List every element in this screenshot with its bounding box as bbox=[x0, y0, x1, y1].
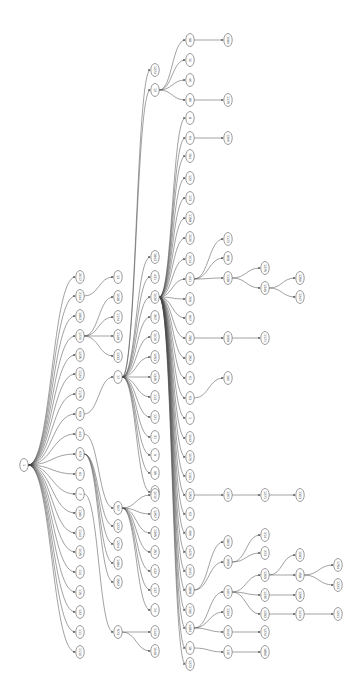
tree-node: 63 bbox=[186, 392, 194, 405]
tree-edge bbox=[159, 297, 185, 590]
node-label: 1303 bbox=[298, 491, 302, 499]
edges-layer bbox=[28, 40, 333, 664]
tree-edge bbox=[159, 297, 185, 610]
tree-node: 86 bbox=[186, 94, 194, 107]
tree-node: 18 bbox=[186, 642, 194, 655]
node-label: 1856 bbox=[263, 648, 267, 656]
tree-node: 367 bbox=[151, 311, 159, 324]
node-label: 1038 bbox=[116, 293, 120, 301]
tree-node: 1562 bbox=[114, 576, 122, 589]
tree-edge bbox=[304, 575, 333, 585]
tree-node: 13 bbox=[114, 271, 122, 284]
tree-node: 2144 bbox=[76, 290, 84, 303]
tree-node: 2017 bbox=[76, 271, 84, 284]
tree-node: 1010 bbox=[151, 489, 159, 502]
tree-node: 122 bbox=[76, 606, 84, 619]
tree-edge bbox=[122, 377, 150, 455]
tree-edge bbox=[28, 465, 75, 572]
tree-node: 1180 bbox=[76, 507, 84, 520]
node-label: 1484 bbox=[116, 559, 120, 567]
tree-node: 116 bbox=[224, 646, 232, 659]
node-label: 1175 bbox=[226, 96, 230, 104]
tree-node: 1484 bbox=[114, 557, 122, 570]
node-label: 1236 bbox=[263, 591, 267, 599]
tree-edge bbox=[28, 414, 75, 465]
node-label: 1020 bbox=[188, 234, 192, 242]
node-label: 1084 bbox=[226, 36, 230, 44]
tree-node: 1042 bbox=[224, 626, 232, 639]
tree-edge bbox=[159, 138, 185, 297]
tree-node: 1247 bbox=[296, 291, 304, 304]
node-label: 1272 bbox=[188, 660, 192, 668]
tree-node: 115 bbox=[76, 586, 84, 599]
tree-node: 1081 bbox=[296, 549, 304, 562]
tree-edge bbox=[122, 495, 150, 508]
tree-node: 1803 bbox=[224, 536, 232, 549]
tree-node: 1962 bbox=[76, 310, 84, 323]
tree-edge bbox=[159, 297, 185, 664]
tree-node: 1669 bbox=[224, 556, 232, 569]
node-label: 113 bbox=[153, 394, 157, 400]
tree-node: 1020 bbox=[186, 232, 194, 245]
node-label: 1295 bbox=[298, 591, 302, 599]
tree-edge bbox=[159, 218, 185, 297]
node-label: 1016 bbox=[153, 333, 157, 341]
node-label: 74 bbox=[153, 608, 157, 612]
node-label: 1144 bbox=[78, 529, 82, 537]
tree-node: 709 bbox=[186, 293, 194, 306]
node-label: 12 bbox=[153, 88, 157, 92]
tree-node: 441 bbox=[186, 273, 194, 286]
tree-node: 1084 bbox=[224, 34, 232, 47]
tree-edge bbox=[28, 374, 75, 465]
node-label: 1292 bbox=[263, 610, 267, 618]
tree-node: 114 bbox=[76, 566, 84, 579]
node-label: 1470 bbox=[188, 548, 192, 556]
tree-node: 1042 bbox=[186, 432, 194, 445]
node-label: 273 bbox=[263, 550, 267, 556]
tree-edge bbox=[122, 632, 150, 651]
tree-node: 1190 bbox=[186, 604, 194, 617]
tree-edge bbox=[122, 90, 150, 377]
node-label: 18 bbox=[188, 646, 192, 650]
node-label: 431 bbox=[153, 274, 157, 280]
tree-edge bbox=[194, 648, 223, 652]
tree-node: 609 bbox=[76, 408, 84, 421]
node-label: 61 bbox=[188, 376, 192, 380]
node-label: 63 bbox=[188, 396, 192, 400]
tree-edge bbox=[194, 542, 223, 590]
node-label: 1042 bbox=[188, 434, 192, 442]
tree-node: 1236 bbox=[261, 589, 269, 602]
tree-node: 1144 bbox=[76, 527, 84, 540]
node-label: 46 bbox=[188, 78, 192, 82]
node-label: 1081 bbox=[298, 551, 302, 559]
tree-edge bbox=[159, 90, 185, 100]
tree-edge bbox=[159, 297, 185, 418]
node-label: 1 bbox=[22, 464, 26, 466]
tree-node: 1345 bbox=[151, 371, 159, 384]
node-label: 441 bbox=[188, 276, 192, 282]
tree-node: 1365 bbox=[151, 527, 159, 540]
node-label: 10 bbox=[188, 58, 192, 62]
node-label: 1180 bbox=[78, 509, 82, 517]
tree-node: 122 bbox=[186, 172, 194, 185]
tree-node: 1016 bbox=[151, 331, 159, 344]
node-label: 808 bbox=[226, 255, 230, 261]
node-label: 91 bbox=[78, 472, 82, 476]
tree-edge bbox=[122, 297, 150, 377]
tree-node: 1484 bbox=[186, 622, 194, 635]
tree-node: 1754 bbox=[334, 559, 342, 572]
tree-node: 111 bbox=[76, 626, 84, 639]
node-label: 1275 bbox=[263, 264, 267, 272]
tree-edge bbox=[159, 297, 185, 648]
tree-edge bbox=[28, 465, 75, 612]
node-label: 62 bbox=[188, 512, 192, 516]
tree-node: 113 bbox=[151, 391, 159, 404]
tree-edge bbox=[269, 278, 295, 288]
tree-edge bbox=[84, 494, 113, 632]
tree-node: 1274 bbox=[151, 64, 159, 77]
node-label: 1770 bbox=[78, 332, 82, 340]
node-label: 1010 bbox=[153, 491, 157, 499]
node-label: 1345 bbox=[153, 373, 157, 381]
node-label: 507 bbox=[116, 505, 120, 511]
tree-node: 1349 bbox=[261, 282, 269, 295]
